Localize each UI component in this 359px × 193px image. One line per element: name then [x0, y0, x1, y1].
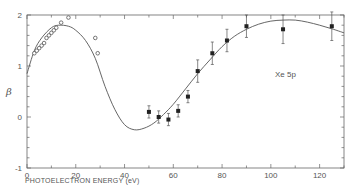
plot-frame: [27, 15, 344, 168]
filled-data-point: [176, 109, 180, 113]
open-circle-point: [54, 26, 58, 30]
filled-data-point: [147, 110, 151, 114]
filled-data-point: [166, 118, 170, 122]
y-axis-label: β: [5, 86, 12, 97]
open-circle-point: [93, 36, 97, 40]
y-tick-label: -1: [15, 164, 23, 173]
y-tick-label: 0: [18, 113, 23, 122]
chart-svg: 020406080100120-1012 β PHOTOELECTRON ENE…: [0, 0, 359, 193]
open-circle-point: [59, 21, 63, 25]
open-circle-point: [67, 16, 71, 20]
filled-data-point: [225, 39, 229, 43]
filled-points: [147, 12, 334, 126]
open-circle-points: [33, 16, 100, 55]
filled-data-point: [157, 115, 161, 119]
x-tick-label: 120: [313, 171, 327, 180]
x-tick-label: 100: [264, 171, 278, 180]
filled-data-point: [186, 95, 190, 99]
annotation-xe5p: Xe 5p: [275, 70, 296, 79]
theory-curve: [27, 20, 344, 130]
open-circle-point: [96, 51, 100, 55]
x-axis-label: PHOTOELECTRON ENERGY (eV): [25, 177, 139, 185]
filled-data-point: [281, 27, 285, 31]
filled-data-point: [210, 51, 214, 55]
filled-data-point: [196, 69, 200, 73]
open-circle-point: [42, 41, 46, 45]
axes: 020406080100120-1012: [15, 11, 344, 180]
x-tick-label: 60: [169, 171, 178, 180]
filled-data-point: [330, 24, 334, 28]
y-tick-label: 1: [18, 62, 23, 71]
y-tick-label: 2: [18, 11, 23, 20]
x-tick-label: 80: [218, 171, 227, 180]
filled-data-point: [244, 24, 248, 28]
